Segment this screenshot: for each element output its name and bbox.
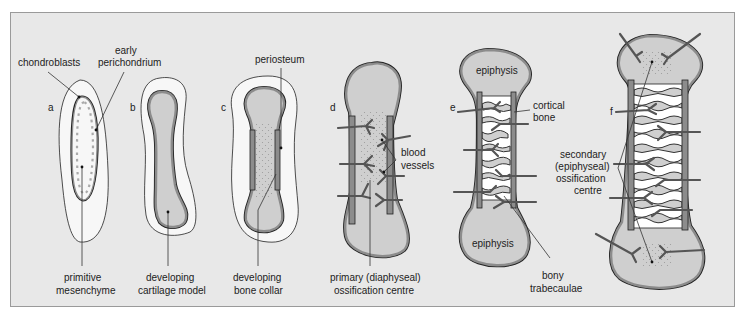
label-centre: centre <box>574 185 602 196</box>
panel-d: d blood vessels primary (diaphyseal) oss… <box>330 63 434 296</box>
label-bone-collar: bone collar <box>234 285 284 296</box>
ossification-diagram: a chondroblasts early perichondrium prim… <box>0 0 746 317</box>
label-ossification: ossification <box>556 173 605 184</box>
label-mesenchyme: mesenchyme <box>56 285 116 296</box>
label-blood: blood <box>401 147 425 158</box>
panel-letter-e: e <box>450 102 456 113</box>
label-perichondrium: perichondrium <box>98 57 161 68</box>
panel-e: e epiphysis epiphysis cortical bone bony… <box>450 50 583 294</box>
label-cortical: cortical <box>533 100 565 111</box>
cortical-left <box>628 80 634 230</box>
label-epiphysis-top: epiphysis <box>476 65 518 76</box>
stippled-core <box>256 122 274 198</box>
label-primitive: primitive <box>64 272 102 283</box>
panel-a: a chondroblasts early perichondrium prim… <box>18 45 161 296</box>
label-trabecaulae: trabecaulae <box>530 283 583 294</box>
panel-letter-b: b <box>130 102 136 113</box>
panel-c: c periosteum developing bone collar <box>221 54 304 296</box>
label-secondary: secondary <box>560 149 606 160</box>
label-ossification-centre: ossification centre <box>334 285 414 296</box>
early-perichondrium-inner <box>72 97 97 200</box>
panel-f: f secondary (epiphyseal) ossification ce… <box>555 34 704 288</box>
label-developing: developing <box>233 272 281 283</box>
label-cartilage-model: cartilage model <box>138 285 206 296</box>
bone-collar-left <box>349 116 355 224</box>
cortical-right <box>511 92 516 208</box>
label-early: early <box>115 45 137 56</box>
cortical-right <box>682 80 688 230</box>
panel-letter-f: f <box>610 106 613 117</box>
label-bone: bone <box>533 112 556 123</box>
panel-b: b developing cartilage model <box>130 78 206 296</box>
panel-letter-c: c <box>221 102 226 113</box>
label-chondroblasts: chondroblasts <box>18 57 80 68</box>
label-developing: developing <box>146 272 194 283</box>
label-vessels: vessels <box>401 160 434 171</box>
bone-collar-right <box>275 130 280 190</box>
label-periosteum: periosteum <box>255 54 304 65</box>
panel-letter-d: d <box>330 102 336 113</box>
label-primary-diaphyseal: primary (diaphyseal) <box>330 272 421 283</box>
panel-letter-a: a <box>48 102 54 113</box>
label-epiphyseal: (epiphyseal) <box>555 161 609 172</box>
label-bony: bony <box>542 270 564 281</box>
label-epiphysis-bottom: epiphysis <box>472 238 514 249</box>
epiphyseal-stipple-top <box>642 50 672 74</box>
bone-collar-left <box>250 130 255 190</box>
